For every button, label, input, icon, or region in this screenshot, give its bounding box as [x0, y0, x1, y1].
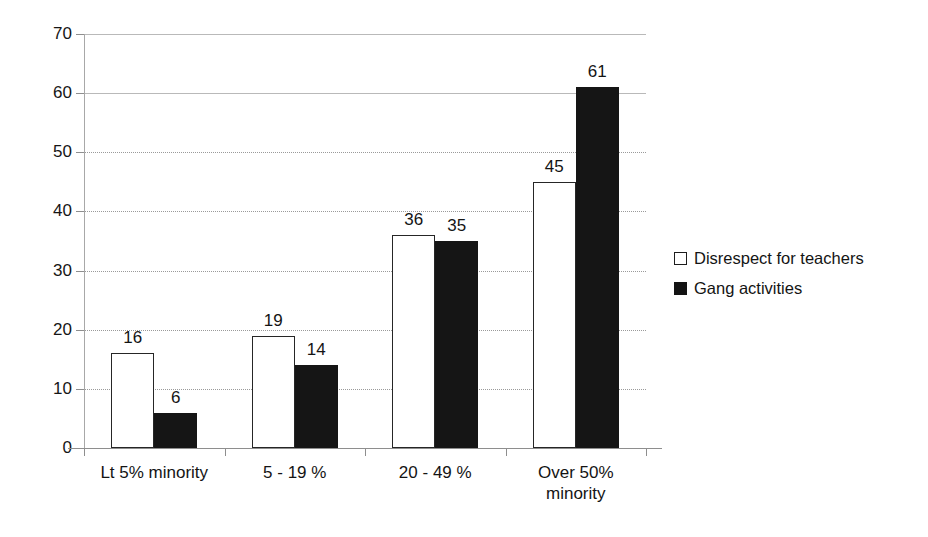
bar[interactable] — [295, 365, 338, 448]
plot-area — [84, 34, 646, 448]
category-label-line: 5 - 19 % — [225, 462, 366, 483]
chart-legend: Disrespect for teachers Gang activities — [674, 243, 924, 303]
x-axis-tick — [365, 448, 366, 456]
bar[interactable] — [154, 413, 197, 448]
bar-value-label: 16 — [99, 329, 166, 346]
bar-value-label: 35 — [423, 217, 490, 234]
x-axis-tick — [506, 448, 507, 456]
category-label-line: Lt 5% minority — [84, 462, 225, 483]
filled-square-marker-icon — [674, 282, 687, 295]
y-axis-tick-label: 60 — [12, 84, 72, 101]
y-axis-tick-label: 30 — [12, 262, 72, 279]
bar-value-label: 14 — [283, 341, 350, 358]
y-axis-tick-label: 70 — [12, 25, 72, 42]
y-axis-tick-label: 0 — [12, 439, 72, 456]
bar-chart: 010203040506070 166191436354561 Lt 5% mi… — [0, 0, 928, 537]
x-axis-tick — [84, 448, 85, 456]
bar[interactable] — [392, 235, 435, 448]
category-label-line: Over 50% — [506, 462, 647, 483]
legend-item-label: Gang activities — [694, 279, 802, 297]
category-label-line: 20 - 49 % — [365, 462, 506, 483]
legend-item-label: Disrespect for teachers — [694, 249, 864, 267]
bar[interactable] — [533, 182, 576, 448]
category-label: Over 50%minority — [506, 462, 647, 504]
y-axis-tick-label: 20 — [12, 321, 72, 338]
bar[interactable] — [576, 87, 619, 448]
y-axis-tick-label: 50 — [12, 143, 72, 160]
legend-item[interactable]: Gang activities — [674, 273, 924, 303]
x-axis-tick — [225, 448, 226, 456]
y-axis-tick-label: 10 — [12, 380, 72, 397]
bar-value-label: 45 — [521, 158, 588, 175]
category-label-line: minority — [506, 483, 647, 504]
open-square-marker-icon — [674, 252, 687, 265]
category-label: 20 - 49 % — [365, 462, 506, 483]
bar[interactable] — [435, 241, 478, 448]
y-axis-tick-label: 40 — [12, 202, 72, 219]
bar-value-label: 19 — [240, 312, 307, 329]
category-label: Lt 5% minority — [84, 462, 225, 483]
legend-item[interactable]: Disrespect for teachers — [674, 243, 924, 273]
bar-value-label: 61 — [564, 63, 631, 80]
x-axis-tick — [646, 448, 647, 456]
bar-value-label: 6 — [142, 389, 209, 406]
category-label: 5 - 19 % — [225, 462, 366, 483]
